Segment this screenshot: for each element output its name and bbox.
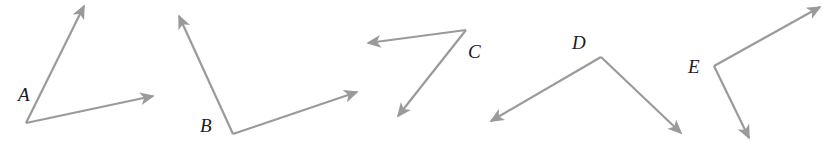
- ray-e-lower: [714, 66, 749, 138]
- ray-a-upper: [26, 6, 84, 123]
- angle-label-e: E: [688, 57, 700, 76]
- ray-d-lower-left: [491, 57, 601, 121]
- angle-label-d: D: [572, 33, 586, 52]
- ray-a-right: [26, 96, 153, 123]
- ray-d-lower-right: [601, 57, 681, 133]
- angle-label-c: C: [468, 42, 481, 61]
- angles-diagram: [0, 0, 834, 151]
- angle-label-b: B: [200, 116, 212, 135]
- ray-c-lower-left: [398, 30, 466, 116]
- angles-figure: A B C D E: [0, 0, 834, 151]
- ray-c-left: [368, 30, 466, 43]
- ray-e-upper-right: [714, 7, 820, 66]
- ray-b-right: [233, 92, 357, 134]
- angle-label-a: A: [18, 85, 30, 104]
- rays-group: [26, 6, 820, 138]
